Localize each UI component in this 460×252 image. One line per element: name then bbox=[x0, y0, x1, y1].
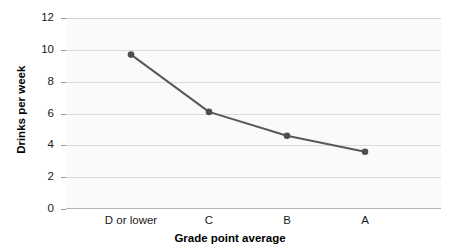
ytick-label-2: 2 bbox=[8, 171, 54, 183]
x-axis-baseline bbox=[66, 208, 441, 209]
y-axis-title: Drinks per week bbox=[16, 50, 28, 170]
x-axis-title: Grade point average bbox=[0, 233, 460, 245]
plot-area bbox=[66, 18, 441, 209]
ytick-label-0: 0 bbox=[8, 203, 54, 215]
ytick-mark-0 bbox=[61, 209, 66, 210]
plot-top-border bbox=[66, 18, 441, 19]
gridline-10 bbox=[66, 50, 441, 51]
gridline-8 bbox=[66, 82, 441, 83]
ytick-mark-8 bbox=[61, 82, 66, 83]
gridline-2 bbox=[66, 177, 441, 178]
ytick-mark-4 bbox=[61, 145, 66, 146]
xtick-label-a: A bbox=[361, 215, 369, 227]
ytick-mark-10 bbox=[61, 50, 66, 51]
ytick-mark-6 bbox=[61, 114, 66, 115]
ytick-label-12: 12 bbox=[8, 12, 54, 24]
gridline-6 bbox=[66, 114, 441, 115]
ytick-label-10: 10 bbox=[8, 44, 54, 56]
ytick-mark-12 bbox=[61, 18, 66, 19]
xtick-label-d-or-lower: D or lower bbox=[105, 215, 157, 227]
line-chart: 12 10 8 6 4 2 0 D or lower C B A Drinks … bbox=[0, 0, 460, 252]
gridline-4 bbox=[66, 145, 441, 146]
xtick-label-c: C bbox=[205, 215, 213, 227]
xtick-label-b: B bbox=[283, 215, 291, 227]
ytick-mark-2 bbox=[61, 177, 66, 178]
